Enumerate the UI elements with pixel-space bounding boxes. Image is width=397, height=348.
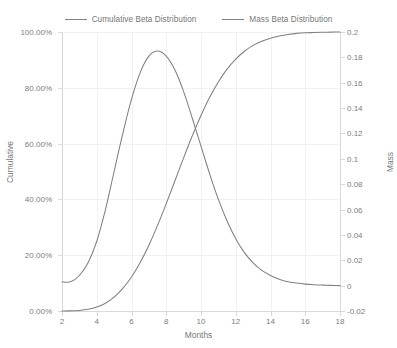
right-tick-mark — [341, 32, 345, 33]
right-tick-mark — [341, 311, 345, 312]
left-tick-label: 60.00% — [25, 139, 52, 148]
right-tick-mark — [341, 184, 345, 185]
bottom-tick-mark — [340, 312, 341, 316]
bottom-tick-mark — [97, 312, 98, 316]
right-tick-label: 0.06 — [347, 205, 363, 214]
right-tick-label: 0.12 — [347, 129, 363, 138]
right-tick-mark — [341, 57, 345, 58]
left-tick-label: 80.00% — [25, 83, 52, 92]
legend-item-cumulative[interactable]: Cumulative Beta Distribution — [65, 15, 197, 24]
beta-distribution-chart: Cumulative Beta Distribution Mass Beta D… — [0, 0, 397, 348]
bottom-tick-label: 6 — [129, 317, 133, 326]
bottom-tick-label: 2 — [60, 317, 64, 326]
right-tick-label: 0.08 — [347, 180, 363, 189]
bottom-tick-label: 8 — [164, 317, 168, 326]
right-tick-mark — [341, 235, 345, 236]
series-line-cumulative — [62, 32, 340, 311]
right-tick-mark — [341, 210, 345, 211]
right-axis-line — [340, 32, 341, 311]
legend-line-swatch-cumulative — [65, 19, 87, 20]
right-tick-label: 0.04 — [347, 230, 363, 239]
left-axis-title: Cumulative — [5, 122, 15, 202]
right-tick-mark — [341, 286, 345, 287]
bottom-tick-mark — [62, 312, 63, 316]
bottom-tick-mark — [271, 312, 272, 316]
series-line-mass — [62, 51, 340, 286]
right-tick-label: 0.02 — [347, 256, 363, 265]
series-plot — [62, 32, 340, 311]
right-tick-label: 0.2 — [347, 28, 358, 37]
bottom-tick-label: 4 — [95, 317, 99, 326]
bottom-tick-label: 12 — [231, 317, 240, 326]
right-tick-mark — [341, 133, 345, 134]
legend-item-mass[interactable]: Mass Beta Distribution — [222, 15, 332, 24]
bottom-tick-label: 16 — [301, 317, 310, 326]
right-tick-label: 0.14 — [347, 104, 363, 113]
x-axis-title: Months — [0, 330, 397, 340]
bottom-tick-label: 14 — [266, 317, 275, 326]
bottom-tick-mark — [305, 312, 306, 316]
legend-label-mass: Mass Beta Distribution — [249, 15, 332, 24]
right-tick-label: 0 — [347, 281, 351, 290]
chart-legend: Cumulative Beta Distribution Mass Beta D… — [0, 11, 397, 27]
right-axis-title: Mass — [385, 122, 395, 202]
bottom-tick-mark — [201, 312, 202, 316]
right-tick-mark — [341, 108, 345, 109]
right-tick-label: 0.18 — [347, 53, 363, 62]
right-tick-label: 0.16 — [347, 78, 363, 87]
right-tick-label: -0.02 — [347, 307, 365, 316]
left-tick-label: 40.00% — [25, 195, 52, 204]
left-tick-label: 100.00% — [20, 28, 52, 37]
bottom-tick-label: 18 — [336, 317, 345, 326]
bottom-tick-label: 10 — [197, 317, 206, 326]
bottom-tick-mark — [132, 312, 133, 316]
left-tick-label: 0.00% — [29, 307, 52, 316]
right-tick-mark — [341, 260, 345, 261]
legend-label-cumulative: Cumulative Beta Distribution — [92, 15, 197, 24]
right-tick-label: 0.1 — [347, 154, 358, 163]
left-tick-label: 20.00% — [25, 251, 52, 260]
right-tick-mark — [341, 83, 345, 84]
right-tick-mark — [341, 159, 345, 160]
bottom-tick-mark — [166, 312, 167, 316]
legend-line-swatch-mass — [222, 19, 244, 20]
bottom-tick-mark — [236, 312, 237, 316]
